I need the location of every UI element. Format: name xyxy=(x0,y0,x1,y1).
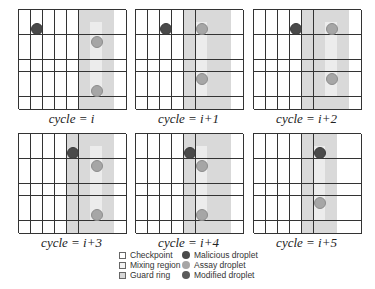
grid-cell xyxy=(184,196,196,209)
grid-cell xyxy=(254,10,266,23)
grid-cell xyxy=(79,159,91,172)
legend-modified-droplet: Modified droplet xyxy=(182,270,254,280)
grid-cell xyxy=(43,171,55,184)
grid-cell xyxy=(266,22,278,35)
grid-cell xyxy=(184,10,196,23)
grid-cell xyxy=(31,134,43,147)
grid-cell xyxy=(302,22,314,35)
grid-cell xyxy=(196,146,208,159)
cycle-caption: cycle = i+1 xyxy=(135,111,242,127)
grid-cell xyxy=(114,72,126,85)
grid-cell xyxy=(337,184,349,197)
grid-cell xyxy=(102,84,114,97)
grid-cell xyxy=(337,159,349,172)
grid-cell xyxy=(43,47,55,60)
grid-cell xyxy=(302,184,314,197)
grid-cell xyxy=(196,10,208,23)
grid-cell xyxy=(43,97,55,110)
grid-cell xyxy=(55,84,67,97)
grid-cell xyxy=(278,184,290,197)
grid-cell xyxy=(31,146,43,159)
grid-cell xyxy=(19,159,31,172)
grid-cell xyxy=(102,184,114,197)
grid-cell xyxy=(114,22,126,35)
grid-cell xyxy=(102,72,114,85)
grid-cell xyxy=(102,208,114,221)
grid-cell xyxy=(31,97,43,110)
grid-cell xyxy=(349,47,361,60)
grid-cell xyxy=(172,47,184,60)
grid-cell xyxy=(219,60,231,73)
grid-cell xyxy=(184,72,196,85)
grid-cell xyxy=(314,35,326,48)
legend-malicious-droplet: Malicious droplet xyxy=(182,250,258,260)
grid-cell xyxy=(55,35,67,48)
grid-cell xyxy=(160,60,172,73)
grid-cell xyxy=(207,221,219,234)
grid-cell xyxy=(148,221,160,234)
grid-cell xyxy=(337,97,349,110)
grid-cell xyxy=(55,184,67,197)
grid-cell xyxy=(172,72,184,85)
grid-cell xyxy=(90,10,102,23)
grid-cell xyxy=(207,208,219,221)
grid-cell xyxy=(79,35,91,48)
grid-cell xyxy=(43,208,55,221)
electrode-grid xyxy=(135,9,243,109)
grid-cell xyxy=(207,196,219,209)
grid-cell xyxy=(114,171,126,184)
grid-cell xyxy=(231,221,243,234)
grid-cell xyxy=(184,184,196,197)
grid-cell xyxy=(349,10,361,23)
grid-cell xyxy=(290,134,302,147)
legend-assay-droplet: Assay droplet xyxy=(182,260,246,270)
grid-cell xyxy=(266,134,278,147)
grid-cell xyxy=(325,10,337,23)
grid-cell xyxy=(67,35,79,48)
legend-label: Assay droplet xyxy=(194,260,246,270)
grid-cell xyxy=(136,146,148,159)
grid-cell xyxy=(19,221,31,234)
grid-cell xyxy=(79,208,91,221)
grid-cell xyxy=(231,47,243,60)
grid-cell xyxy=(349,196,361,209)
grid-cell xyxy=(302,134,314,147)
grid-cell xyxy=(325,171,337,184)
grid-cell xyxy=(148,60,160,73)
grid-cell xyxy=(90,196,102,209)
assay-droplet-icon xyxy=(326,23,338,35)
grid-cell xyxy=(254,221,266,234)
electrode-grid xyxy=(253,9,361,109)
legend-label: Guard ring xyxy=(130,270,170,280)
grid-cell xyxy=(337,72,349,85)
grid-cell xyxy=(31,60,43,73)
grid-cell xyxy=(184,221,196,234)
grid-cell xyxy=(349,35,361,48)
grid-cell xyxy=(314,22,326,35)
grid-cell xyxy=(290,84,302,97)
grid-cell xyxy=(148,184,160,197)
grid-cell xyxy=(55,47,67,60)
grid-cell xyxy=(231,159,243,172)
grid-cell xyxy=(79,97,91,110)
grid-cell xyxy=(160,84,172,97)
grid-cell xyxy=(231,84,243,97)
grid-cell xyxy=(325,196,337,209)
grid-cell xyxy=(172,60,184,73)
grid-cell xyxy=(31,184,43,197)
grid-cell xyxy=(67,221,79,234)
grid-cell xyxy=(67,184,79,197)
grid-cell xyxy=(19,208,31,221)
grid-cell xyxy=(90,146,102,159)
grid-cell xyxy=(184,171,196,184)
grid-cell xyxy=(337,84,349,97)
grid-cell xyxy=(114,184,126,197)
grid-cell xyxy=(219,171,231,184)
grid-cell xyxy=(278,84,290,97)
grid-cell xyxy=(102,134,114,147)
grid-cell xyxy=(314,184,326,197)
grid-cell xyxy=(231,146,243,159)
grid-cell xyxy=(19,97,31,110)
grid-cell xyxy=(172,10,184,23)
grid-cell xyxy=(55,159,67,172)
